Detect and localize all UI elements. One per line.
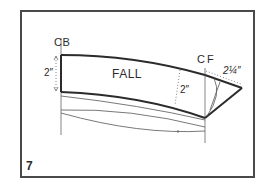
mid-measure-label: 2″ xyxy=(180,85,189,95)
center-back-label: CB xyxy=(54,37,70,48)
collar-top-extension xyxy=(205,75,242,88)
pattern-diagram: CB CF FALL 2″ 2″ 2¼″ 7 xyxy=(0,0,269,186)
pattern-drawing xyxy=(0,0,269,186)
left-measure-label: 2″ xyxy=(44,68,53,78)
collar-tip-edge xyxy=(205,88,242,118)
center-front-label: CF xyxy=(197,54,216,65)
tip-measure-label: 2¼″ xyxy=(223,66,240,76)
fall-label: FALL xyxy=(112,68,142,80)
fall-bottom-edge xyxy=(61,92,205,118)
figure-number: 7 xyxy=(26,160,33,172)
